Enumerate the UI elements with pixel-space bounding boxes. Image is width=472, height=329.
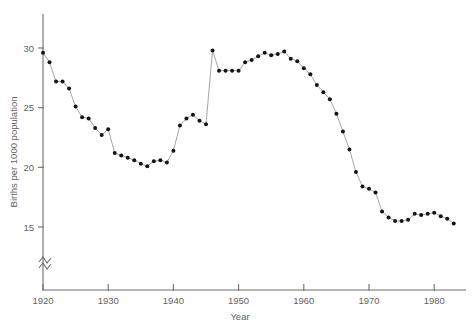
data-point xyxy=(152,159,156,163)
y-tick-label: 30 xyxy=(23,43,34,54)
data-point xyxy=(374,190,378,194)
data-point xyxy=(445,217,449,221)
data-point xyxy=(145,164,149,168)
data-point xyxy=(178,124,182,128)
data-point xyxy=(54,79,58,83)
data-point xyxy=(360,184,364,188)
data-point xyxy=(400,219,404,223)
data-point xyxy=(126,156,130,160)
data-point xyxy=(237,69,241,73)
birth-rate-data-points xyxy=(41,48,456,225)
birth-rate-line-chart: 15202530 1920193019401950196019701980 Bi… xyxy=(0,0,472,329)
data-point xyxy=(119,153,123,157)
data-point xyxy=(452,221,456,225)
data-point xyxy=(230,69,234,73)
chart-canvas: 15202530 1920193019401950196019701980 Bi… xyxy=(0,0,472,329)
x-tick-label: 1940 xyxy=(163,295,184,306)
data-point xyxy=(387,215,391,219)
x-tick-label: 1970 xyxy=(358,295,379,306)
data-point xyxy=(93,126,97,130)
data-point xyxy=(393,219,397,223)
data-point xyxy=(184,116,188,120)
data-point xyxy=(74,104,78,108)
data-point xyxy=(282,50,286,54)
data-point xyxy=(243,60,247,64)
data-point xyxy=(406,218,410,222)
data-point xyxy=(432,211,436,215)
data-point xyxy=(328,97,332,101)
y-tick-label: 20 xyxy=(23,162,34,173)
x-tick-label: 1950 xyxy=(228,295,249,306)
data-point xyxy=(165,161,169,165)
x-axis-ticks: 1920193019401950196019701980 xyxy=(32,284,444,306)
birth-rate-series-line xyxy=(43,50,454,223)
x-tick-label: 1960 xyxy=(293,295,314,306)
y-axis-title: Births per 1000 population xyxy=(8,97,19,208)
data-point xyxy=(100,133,104,137)
data-point xyxy=(302,66,306,70)
data-point xyxy=(289,57,293,61)
data-point xyxy=(67,87,71,91)
data-point xyxy=(347,147,351,151)
data-point xyxy=(132,158,136,162)
data-point xyxy=(113,151,117,155)
data-point xyxy=(224,69,228,73)
data-point xyxy=(191,113,195,117)
data-point xyxy=(106,127,110,131)
data-point xyxy=(197,119,201,123)
data-point xyxy=(217,69,221,73)
data-point xyxy=(419,213,423,217)
data-point xyxy=(341,130,345,134)
x-tick-label: 1980 xyxy=(424,295,445,306)
x-tick-label: 1930 xyxy=(98,295,119,306)
data-point xyxy=(256,54,260,58)
data-point xyxy=(139,162,143,166)
y-tick-label: 25 xyxy=(23,102,34,113)
data-point xyxy=(87,116,91,120)
data-point xyxy=(48,60,52,64)
data-point xyxy=(308,72,312,76)
data-point xyxy=(41,51,45,55)
data-point xyxy=(334,112,338,116)
data-point xyxy=(211,48,215,52)
x-axis-title: Year xyxy=(230,311,249,322)
data-point xyxy=(321,90,325,94)
data-point xyxy=(263,51,267,55)
data-point xyxy=(315,83,319,87)
data-point xyxy=(276,52,280,56)
data-point xyxy=(80,115,84,119)
data-point xyxy=(250,58,254,62)
data-point xyxy=(426,212,430,216)
data-point xyxy=(61,79,65,83)
data-point xyxy=(354,170,358,174)
y-axis-ticks: 15202530 xyxy=(23,43,44,233)
y-tick-label: 15 xyxy=(23,222,34,233)
data-point xyxy=(171,149,175,153)
data-point xyxy=(367,187,371,191)
data-point xyxy=(295,59,299,63)
data-point xyxy=(204,122,208,126)
data-point xyxy=(413,212,417,216)
data-point xyxy=(380,209,384,213)
data-point xyxy=(439,214,443,218)
data-point xyxy=(158,158,162,162)
x-tick-label: 1920 xyxy=(32,295,53,306)
y-axis-break-icon xyxy=(39,257,51,269)
data-point xyxy=(269,53,273,57)
